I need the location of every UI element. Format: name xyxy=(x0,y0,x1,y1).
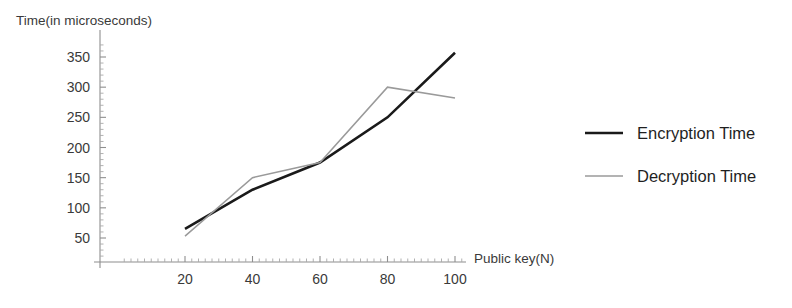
y-tick-label: 50 xyxy=(74,230,90,246)
x-axis-tick-labels: 20406080100 xyxy=(177,271,467,287)
line-chart-figure: Time(in microseconds) Public key(N) 5010… xyxy=(0,0,792,308)
y-tick-label: 150 xyxy=(67,170,91,186)
x-tick-label: 80 xyxy=(380,271,396,287)
series-line-encryption-time xyxy=(185,53,455,229)
x-tick-label: 60 xyxy=(312,271,328,287)
x-axis-ticks xyxy=(124,256,462,262)
chart-legend: Encryption TimeDecryption Time xyxy=(585,124,756,185)
legend-label-decryption-time: Decryption Time xyxy=(637,167,756,185)
x-tick-label: 20 xyxy=(177,271,193,287)
y-tick-label: 200 xyxy=(67,140,91,156)
series-line-decryption-time xyxy=(185,87,455,236)
y-tick-label: 250 xyxy=(67,109,91,125)
y-tick-label: 300 xyxy=(67,79,91,95)
legend-label-encryption-time: Encryption Time xyxy=(637,124,755,142)
y-axis-title: Time(in microseconds) xyxy=(16,13,152,28)
y-axis-ticks xyxy=(100,45,106,256)
x-tick-label: 40 xyxy=(245,271,261,287)
y-tick-label: 100 xyxy=(67,200,91,216)
y-tick-label: 350 xyxy=(67,49,91,65)
x-axis-title: Public key(N) xyxy=(474,251,554,266)
series-lines xyxy=(185,53,455,236)
y-axis-tick-labels: 50100150200250300350 xyxy=(67,49,91,246)
chart-svg: Time(in microseconds) Public key(N) 5010… xyxy=(0,0,792,308)
x-tick-label: 100 xyxy=(443,271,467,287)
